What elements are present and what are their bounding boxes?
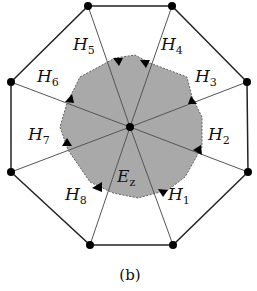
label-h8: H8 (64, 184, 87, 207)
label-h7: H7 (27, 124, 50, 147)
vertex (7, 78, 15, 86)
label-h4: H4 (160, 34, 183, 57)
label-h6: H6 (36, 66, 59, 89)
vertex (84, 2, 92, 10)
vertex (244, 168, 252, 176)
vertex (169, 241, 177, 249)
arrow-h1-icon (158, 189, 168, 197)
vertex (243, 78, 251, 86)
vertex (86, 241, 94, 249)
vertex (168, 2, 176, 10)
vertex (7, 168, 15, 176)
label-h3: H3 (194, 66, 217, 89)
figure-caption: (b) (119, 266, 140, 284)
planar-subdivision-diagram: H1 H2 H3 H4 H5 H6 H7 H8 Ez (b) (0, 0, 257, 291)
label-h5: H5 (72, 34, 95, 57)
label-h1: H1 (167, 184, 190, 207)
label-h2: H2 (207, 124, 230, 147)
center-vertex (126, 123, 134, 131)
